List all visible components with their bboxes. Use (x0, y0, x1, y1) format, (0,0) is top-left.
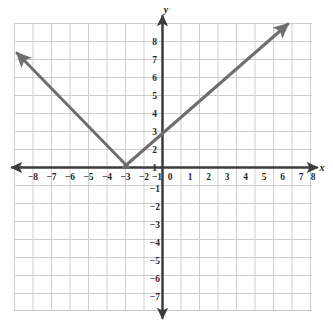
y-tick-label: 4 (152, 109, 157, 119)
y-tick-label: −7 (150, 292, 160, 302)
y-tick-label: 8 (152, 37, 157, 47)
x-tick-label: −5 (83, 172, 93, 182)
y-tick-label: 6 (152, 73, 157, 83)
y-tick-label: 7 (152, 55, 157, 65)
x-tick-label: −6 (65, 172, 75, 182)
y-tick-label: −1 (150, 184, 160, 194)
y-tick-label: 2 (152, 145, 157, 155)
y-tick-label: −4 (150, 238, 160, 248)
x-tick-label: 1 (188, 172, 193, 182)
y-tick-label: 5 (152, 91, 157, 101)
x-tick-label: 6 (280, 172, 285, 182)
x-tick-label: −3 (120, 172, 130, 182)
x-tick-label: −7 (46, 172, 56, 182)
x-tick-label: −2 (139, 172, 149, 182)
x-tick-label: −8 (28, 172, 38, 182)
y-tick-label: −5 (150, 256, 160, 266)
x-tick-label: 5 (262, 172, 267, 182)
x-tick-label: 3 (225, 172, 230, 182)
x-tick-label: −4 (102, 172, 112, 182)
y-tick-label: −6 (150, 274, 160, 284)
y-tick-label: −3 (150, 220, 160, 230)
x-tick-label: −1 (152, 172, 162, 182)
y-tick-label: 1 (152, 163, 157, 173)
y-axis-label: y (163, 4, 169, 15)
x-axis-label: x (319, 162, 325, 173)
origin-label: 0 (168, 172, 173, 182)
x-tick-label: 2 (206, 172, 211, 182)
y-tick-label: −2 (150, 202, 160, 212)
coordinate-plane: x y −8 −7 −6 −5 −4 −3 −2 −1 0 1 2 3 4 5 … (0, 0, 333, 328)
x-tick-label: 4 (243, 172, 248, 182)
x-tick-label: 7 (299, 172, 304, 182)
y-tick-label: 3 (152, 127, 157, 137)
x-tick-label: 8 (311, 172, 316, 182)
graph-figure: x y −8 −7 −6 −5 −4 −3 −2 −1 0 1 2 3 4 5 … (0, 0, 333, 328)
